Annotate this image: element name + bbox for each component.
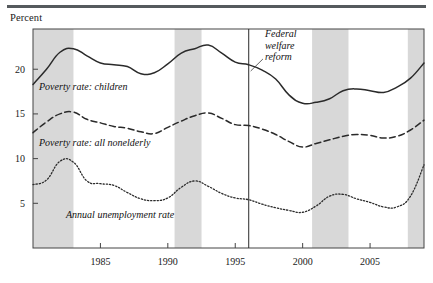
y-tick-label: 5 — [20, 198, 25, 209]
x-tick-label: 1995 — [225, 256, 245, 267]
y-tick-label: 10 — [15, 153, 25, 164]
series-line-poverty-rate-children — [33, 45, 424, 104]
x-tick-label: 1985 — [90, 256, 110, 267]
x-tick-label: 2005 — [360, 256, 380, 267]
annotations-group: Federalwelfarereform — [249, 28, 297, 248]
figure-container: Percent 5101520 19851990199520002005 Fed… — [0, 0, 433, 283]
welfare-reform-annotation-line-2: welfare — [265, 40, 295, 51]
recession-band-3 — [312, 29, 348, 248]
line-chart: 5101520 19851990199520002005 Federalwelf… — [0, 0, 433, 283]
y-tick-label: 20 — [15, 64, 25, 75]
recession-band-4 — [408, 29, 424, 248]
series-label-poverty-rate-children: Poverty rate: children — [38, 81, 128, 92]
series-label-poverty-rate-all-nonelderly: Poverty rate: all nonelderly — [38, 137, 151, 148]
x-tick-label: 2000 — [293, 256, 313, 267]
welfare-reform-annotation-line-3: reform — [265, 51, 292, 62]
series-line-annual-unemployment-rate — [33, 159, 424, 213]
x-tick-label: 1990 — [158, 256, 178, 267]
recession-band-2 — [175, 29, 202, 248]
series-label-annual-unemployment-rate: Annual unemployment rate — [65, 209, 175, 220]
y-tick-label: 15 — [15, 108, 25, 119]
data-series-group — [33, 45, 424, 213]
welfare-reform-annotation-line-1: Federal — [264, 28, 297, 39]
